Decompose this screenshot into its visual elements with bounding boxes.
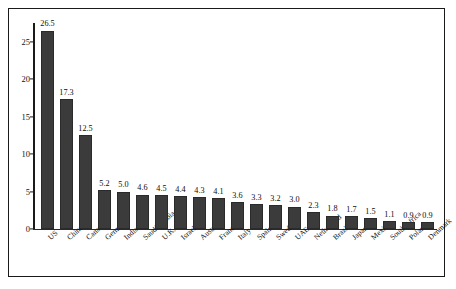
bar-rect[interactable] (174, 196, 187, 229)
bar-item[interactable]: 3.2Sweden (269, 23, 282, 229)
bar-value-label: 1.8 (327, 205, 337, 213)
bar-rect[interactable] (326, 216, 339, 229)
bar-rect[interactable] (60, 99, 73, 229)
bar-item[interactable]: 3.0UAE (288, 23, 301, 229)
bar-item[interactable]: 4.5U.K. (155, 23, 168, 229)
bar-item[interactable]: 0.9Denmark (421, 23, 434, 229)
bar-rect[interactable] (212, 198, 225, 229)
bar-rect[interactable] (307, 212, 320, 229)
bar-item[interactable]: 12.5Canada (79, 23, 92, 229)
bar-item[interactable]: 17.3China (60, 23, 73, 229)
bar-rect[interactable] (250, 204, 263, 229)
bar-rect[interactable] (117, 192, 130, 229)
bar-rect[interactable] (136, 195, 149, 229)
bar-value-label: 12.5 (78, 125, 92, 133)
bar-rect[interactable] (79, 135, 92, 229)
bar-rect[interactable] (345, 216, 358, 229)
bar-item[interactable]: 1.7Japan (345, 23, 358, 229)
y-axis-tick-mark (30, 228, 34, 229)
x-axis-category-label: Denmark (427, 217, 453, 242)
bar-value-label: 3.6 (232, 192, 242, 200)
y-axis-tick-mark (30, 153, 34, 154)
bar-value-label: 3.0 (289, 196, 299, 204)
bar-rect[interactable] (155, 195, 168, 229)
bar-rect[interactable] (41, 31, 54, 230)
plot-area: 0510152025 26.5US17.3China12.5Canada5.2G… (33, 23, 437, 268)
bar-group: 26.5US17.3China12.5Canada5.2Germany5.0In… (38, 23, 437, 229)
bar-item[interactable]: 4.3Australia (193, 23, 206, 229)
bar-item[interactable]: 1.1South Africa (383, 23, 396, 229)
bar-value-label: 26.5 (40, 20, 54, 28)
bar-value-label: 4.1 (213, 188, 223, 196)
y-axis-line (33, 23, 35, 229)
bar-item[interactable]: 5.2Germany (98, 23, 111, 229)
bar-item[interactable]: 5.0India (117, 23, 130, 229)
y-axis-tick-mark (30, 191, 34, 192)
bar-rect[interactable] (231, 202, 244, 229)
bar-value-label: 1.5 (365, 208, 375, 216)
bar-value-label: 3.2 (270, 195, 280, 203)
bar-value-label: 0.9 (403, 212, 413, 220)
bar-value-label: 1.1 (384, 211, 394, 219)
bar-value-label: 2.3 (308, 202, 318, 210)
bar-item[interactable]: 3.6Italy (231, 23, 244, 229)
bar-rect[interactable] (288, 207, 301, 229)
bar-value-label: 5.2 (99, 180, 109, 188)
bar-value-label: 0.9 (422, 212, 432, 220)
bar-item[interactable]: 3.3Spain (250, 23, 263, 229)
bar-item[interactable]: 4.1France (212, 23, 225, 229)
bar-item[interactable]: 26.5US (41, 23, 54, 229)
bar-value-label: 4.6 (137, 184, 147, 192)
y-axis-tick-mark (30, 116, 34, 117)
x-axis-category-label: US (47, 229, 59, 241)
bar-item[interactable]: 1.5Mexico (364, 23, 377, 229)
bar-value-label: 4.5 (156, 185, 166, 193)
bar-rect[interactable] (269, 205, 282, 229)
bar-item[interactable]: 0.9Poland (402, 23, 415, 229)
bar-value-label: 5.0 (118, 181, 128, 189)
bar-item[interactable]: 2.3Netherland (307, 23, 320, 229)
bar-rect[interactable] (98, 190, 111, 229)
bar-rect[interactable] (364, 218, 377, 229)
bar-value-label: 4.4 (175, 186, 185, 194)
bar-value-label: 17.3 (59, 89, 73, 97)
bar-rect[interactable] (383, 221, 396, 229)
bar-item[interactable]: 4.6Saudi Arabia (136, 23, 149, 229)
y-axis-tick-mark (30, 41, 34, 42)
bar-value-label: 3.3 (251, 194, 261, 202)
bar-item[interactable]: 4.4Israel (174, 23, 187, 229)
bar-value-label: 4.3 (194, 187, 204, 195)
y-axis-tick-mark (30, 79, 34, 80)
bar-item[interactable]: 1.8Brazil (326, 23, 339, 229)
chart-figure: 0510152025 26.5US17.3China12.5Canada5.2G… (8, 8, 445, 277)
bar-rect[interactable] (193, 197, 206, 229)
bar-value-label: 1.7 (346, 206, 356, 214)
